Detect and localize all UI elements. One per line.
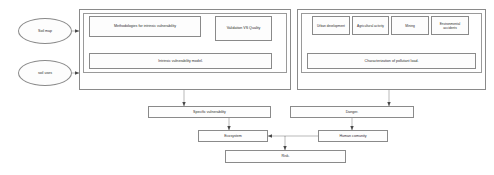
soil-map-label: Soil map bbox=[19, 19, 71, 43]
node-urban-development: Urban development bbox=[312, 16, 350, 35]
node-mining: Mining bbox=[391, 16, 429, 35]
node-human-community: Human comunity bbox=[318, 130, 388, 142]
input-node-soil-uses: soil uses bbox=[18, 60, 72, 86]
intrinsic-model-label: Intrinsic vulnerability model. bbox=[90, 54, 271, 68]
ecosystem-label: Ecosystem bbox=[199, 131, 267, 141]
node-risk: Risk. bbox=[225, 150, 346, 163]
methodologies-label: Methodologies for intrinsic vulnerabilit… bbox=[90, 17, 200, 36]
node-characterization: Characterization of pollutant load. bbox=[307, 53, 476, 69]
node-validation-quality: Validation VS Quality bbox=[215, 16, 272, 41]
urban-development-label: Urban development bbox=[313, 17, 349, 34]
node-methodologies: Methodologies for intrinsic vulnerabilit… bbox=[89, 16, 201, 37]
input-node-soil-map: Soil map bbox=[18, 18, 72, 44]
agricultural-activity-label: Agricultural activity bbox=[353, 17, 388, 34]
node-environmental-accidents: Environmental accidents bbox=[431, 16, 469, 35]
danger-label: Danger. bbox=[291, 107, 413, 117]
human-community-label: Human comunity bbox=[319, 131, 387, 141]
soil-uses-label: soil uses bbox=[19, 61, 71, 85]
flowchart-diagram: Soil map soil uses Methodologies for int… bbox=[0, 0, 494, 175]
node-danger: Danger. bbox=[290, 106, 414, 118]
node-ecosystem: Ecosystem bbox=[198, 130, 268, 142]
node-specific-vulnerability: Specific vulnerability bbox=[148, 106, 271, 118]
specific-vulnerability-label: Specific vulnerability bbox=[149, 107, 270, 117]
node-agricultural-activity: Agricultural activity bbox=[352, 16, 389, 35]
risk-label: Risk. bbox=[226, 151, 345, 162]
mining-label: Mining bbox=[392, 17, 428, 34]
validation-quality-label: Validation VS Quality bbox=[216, 17, 271, 40]
node-intrinsic-model: Intrinsic vulnerability model. bbox=[89, 53, 272, 69]
environmental-accidents-label: Environmental accidents bbox=[432, 17, 468, 34]
characterization-label: Characterization of pollutant load. bbox=[308, 54, 475, 68]
